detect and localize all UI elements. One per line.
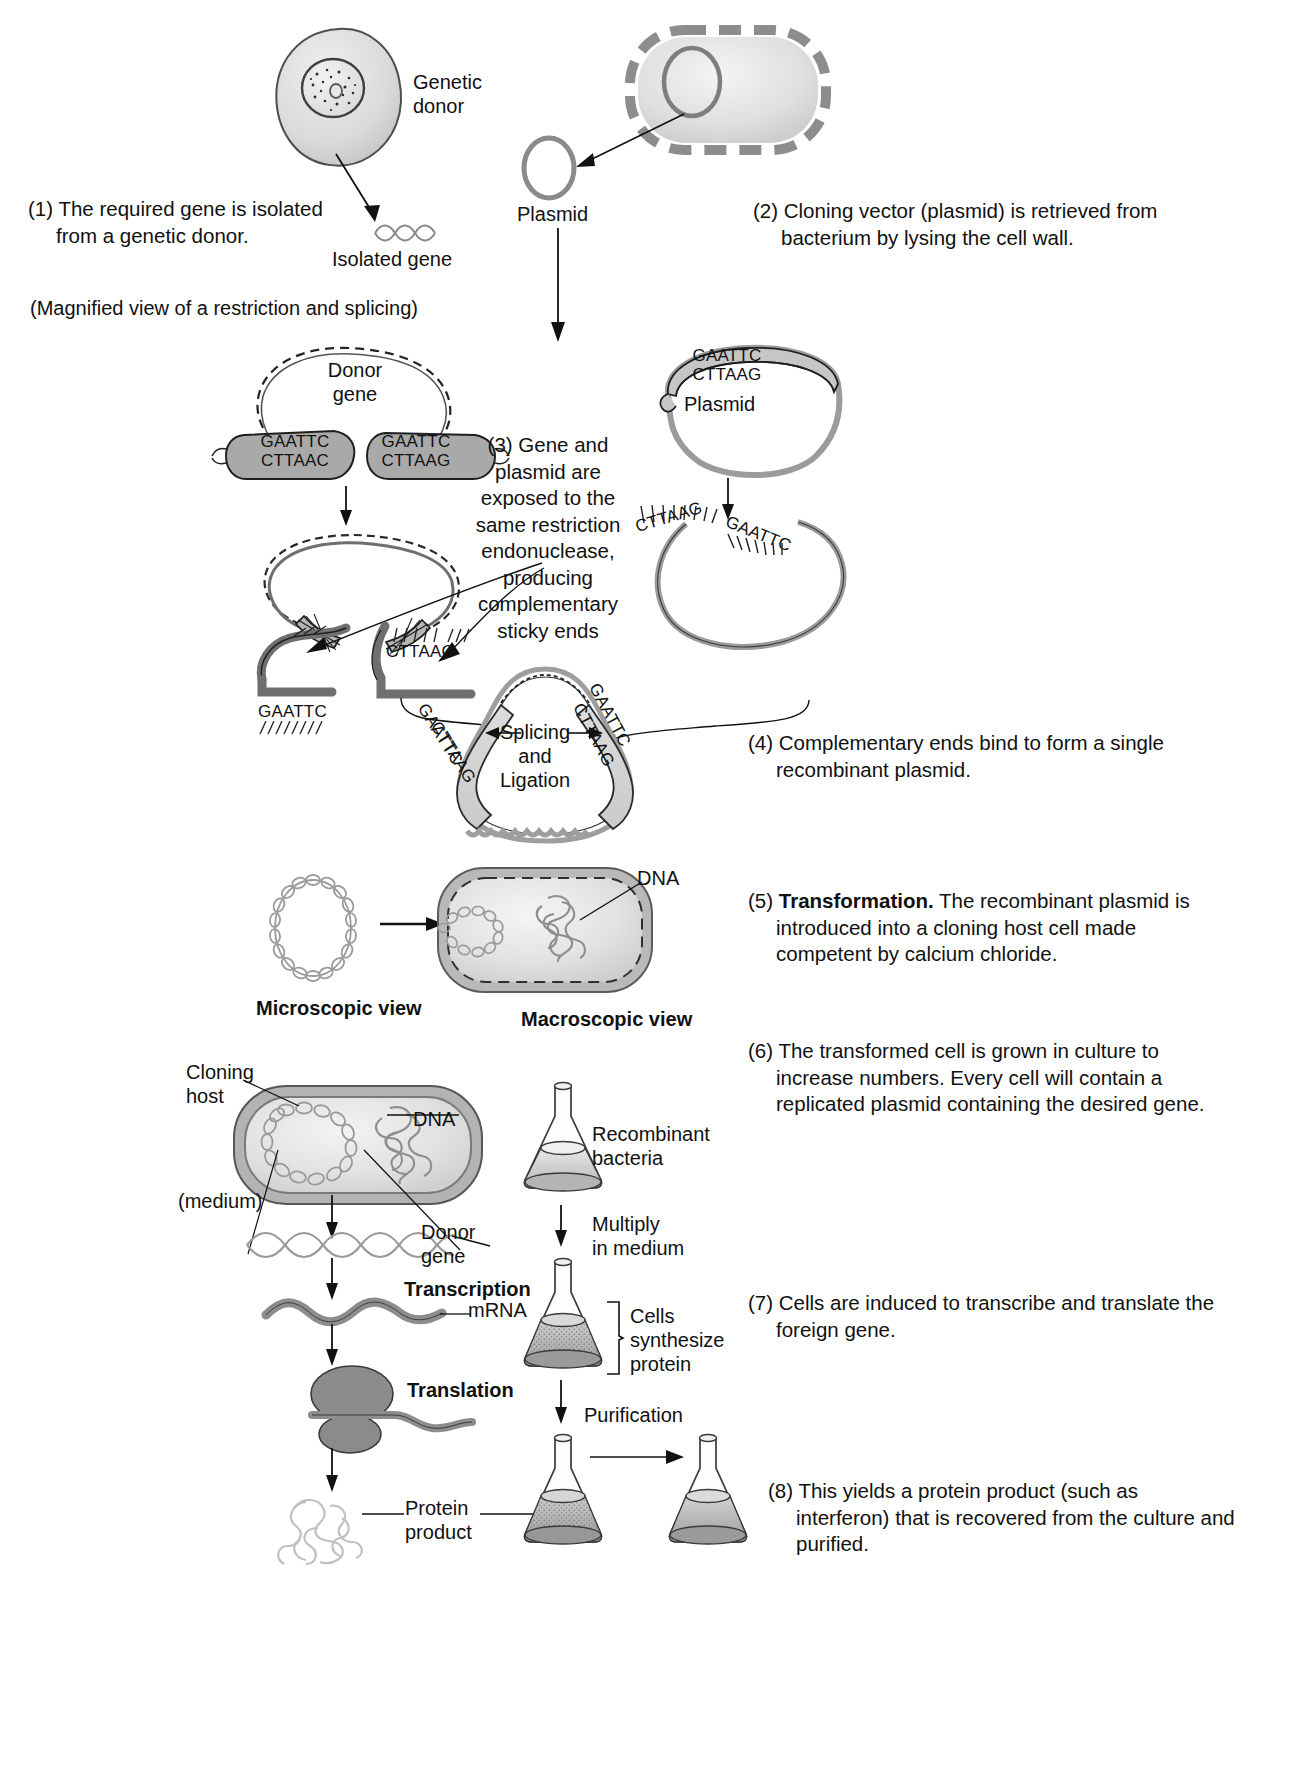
to-purification-arrow bbox=[551, 1380, 571, 1426]
step-7-body: Cells are induced to transcribe and tran… bbox=[776, 1291, 1214, 1341]
beaded-plasmid-micro bbox=[258, 868, 368, 988]
step-7-number: (7) bbox=[748, 1291, 773, 1314]
donor-gene-label: Donor gene bbox=[300, 358, 410, 406]
donor-sticky-left-sequence: GAATTC bbox=[258, 702, 327, 721]
step-3-body: Gene and plasmid are exposed to the same… bbox=[476, 433, 621, 642]
protein-product-blob bbox=[272, 1488, 382, 1568]
flask-purified-product bbox=[658, 1434, 762, 1546]
donor-cut-arrow bbox=[336, 486, 356, 528]
step-2-number: (2) bbox=[753, 199, 778, 222]
isolated-gene-label: Isolated gene bbox=[332, 247, 452, 271]
magnified-view-note: (Magnified view of a restriction and spl… bbox=[30, 296, 418, 320]
plasmid-circle bbox=[518, 133, 580, 203]
translation-label: Translation bbox=[407, 1378, 514, 1402]
step-8-text: (8) This yields a protein product (such … bbox=[768, 1478, 1236, 1558]
donor-sticky-end-left bbox=[242, 622, 372, 702]
step-4-text: (4) Complementary ends bind to form a si… bbox=[748, 730, 1206, 783]
step-1-body: The required gene is isolated from a gen… bbox=[56, 197, 323, 247]
plasmid-mid-label: Plasmid bbox=[684, 392, 755, 416]
plasmid-site-sequence: GAATTC CTTAAG bbox=[682, 346, 772, 384]
to-ribosome-arrow bbox=[322, 1324, 342, 1368]
microscopic-view-label: Microscopic view bbox=[256, 996, 422, 1020]
donor-gene-label-2: Donor gene bbox=[421, 1220, 475, 1268]
plasmid-down-arrow bbox=[548, 228, 568, 346]
step-6-number: (6) bbox=[748, 1039, 773, 1062]
cloning-host-leader bbox=[243, 1078, 303, 1112]
step-3-number: (3) bbox=[488, 433, 513, 456]
step-1-number: (1) bbox=[28, 197, 53, 220]
step-4-number: (4) bbox=[748, 731, 773, 754]
recombinant-bacteria-label: Recombinant bacteria bbox=[592, 1122, 710, 1170]
mrna-strand bbox=[260, 1297, 450, 1329]
cells-synthesize-bracket bbox=[603, 1300, 625, 1376]
cells-synthesize-label: Cells synthesize protein bbox=[630, 1304, 725, 1376]
step-5-number: (5) bbox=[748, 889, 773, 912]
plasmid-label: Plasmid bbox=[517, 202, 588, 226]
step-5-text: (5) Transformation. The recombinant plas… bbox=[748, 888, 1226, 968]
multiply-label: Multiply in medium bbox=[592, 1212, 684, 1260]
protein-leader-left bbox=[362, 1508, 406, 1520]
genetic-donor-label: Genetic donor bbox=[413, 70, 482, 118]
dna-label-1: DNA bbox=[637, 866, 679, 890]
donor-left-sequence: GAATTC CTTAAC bbox=[252, 432, 338, 470]
multiply-arrow bbox=[551, 1205, 571, 1249]
step-5-lead: Transformation. bbox=[779, 889, 934, 912]
step-2-body: Cloning vector (plasmid) is retrieved fr… bbox=[781, 199, 1157, 249]
dna-label-2: DNA bbox=[413, 1107, 455, 1131]
step-6-text: (6) The transformed cell is grown in cul… bbox=[748, 1038, 1236, 1118]
step-1-text: (1) The required gene is isolated from a… bbox=[28, 196, 356, 249]
purification-label: Purification bbox=[584, 1403, 683, 1427]
flask-cells-synthesize bbox=[513, 1258, 617, 1370]
to-mrna-arrow bbox=[322, 1258, 342, 1302]
step-7-text: (7) Cells are induced to transcribe and … bbox=[748, 1290, 1226, 1343]
step-4-body: Complementary ends bind to form a single… bbox=[776, 731, 1164, 781]
step-8-number: (8) bbox=[768, 1479, 793, 1502]
cut-plasmid-right-hatch bbox=[724, 530, 814, 556]
step-3-text: (3) Gene and plasmid are exposed to the … bbox=[468, 432, 628, 644]
step-6-body: The transformed cell is grown in culture… bbox=[776, 1039, 1205, 1115]
splicing-ligation-label: Splicing and Ligation bbox=[495, 720, 575, 792]
donor-right-sequence: GAATTC CTTAAG bbox=[373, 432, 459, 470]
protein-product-label: Protein product bbox=[405, 1496, 472, 1544]
isolated-gene-dna bbox=[373, 222, 437, 244]
step-8-body: This yields a protein product (such as i… bbox=[796, 1479, 1235, 1555]
donor-sticky-left-hatch bbox=[256, 720, 336, 736]
macroscopic-view-label: Macroscopic view bbox=[521, 1007, 692, 1031]
step-2-text: (2) Cloning vector (plasmid) is retrieve… bbox=[753, 198, 1211, 251]
